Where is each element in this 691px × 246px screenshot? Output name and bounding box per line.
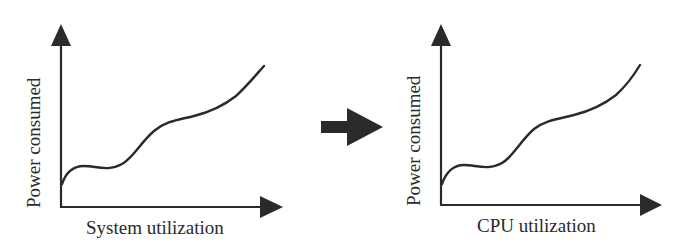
- diagram-canvas: Power consumed System utilization Power …: [0, 0, 691, 246]
- left-chart: Power consumed System utilization: [23, 24, 283, 238]
- right-x-axis-arrow-icon: [640, 194, 662, 216]
- right-x-axis-label: CPU utilization: [477, 215, 596, 236]
- right-chart: Power consumed CPU utilization: [403, 24, 662, 236]
- right-y-axis-label: Power consumed: [403, 75, 424, 206]
- left-x-axis-label: System utilization: [86, 217, 224, 238]
- left-x-axis-arrow-icon: [260, 196, 283, 218]
- left-y-axis-arrow-icon: [51, 24, 71, 46]
- left-power-curve: [62, 66, 264, 184]
- right-arrow-icon: [321, 108, 383, 146]
- left-y-axis-label: Power consumed: [23, 77, 44, 208]
- right-power-curve: [442, 65, 640, 184]
- right-y-axis-arrow-icon: [431, 24, 451, 46]
